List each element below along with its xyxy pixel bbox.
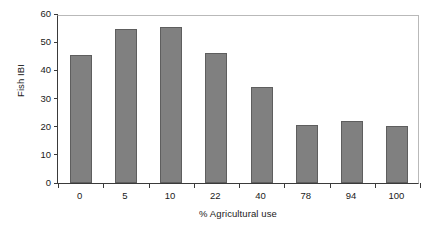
- x-tick-mark: [239, 183, 240, 188]
- bar: [205, 53, 227, 183]
- y-tick-label: 20: [40, 121, 51, 132]
- y-tick-mark: [54, 70, 58, 71]
- x-tick-mark: [420, 183, 421, 188]
- x-tick-mark: [58, 183, 59, 188]
- x-tick-label: 94: [329, 190, 374, 201]
- bar: [70, 55, 92, 183]
- y-tick-mark: [54, 126, 58, 127]
- y-tick-mark: [54, 98, 58, 99]
- y-axis-title: Fish IBI: [15, 51, 26, 111]
- y-tick-label: 10: [40, 149, 51, 160]
- x-tick-label: 0: [57, 190, 102, 201]
- x-tick-mark: [330, 183, 331, 188]
- y-tick-label: 50: [40, 36, 51, 47]
- y-tick-mark: [54, 14, 58, 15]
- bar: [115, 29, 137, 183]
- y-tick-label: 60: [40, 8, 51, 19]
- x-tick-mark: [284, 183, 285, 188]
- fish-ibi-bar-chart: Fish IBI 0102030405060 051022407894100 %…: [0, 0, 443, 240]
- y-tick-label: 30: [40, 93, 51, 104]
- x-tick-mark: [375, 183, 376, 188]
- y-tick-mark: [54, 42, 58, 43]
- x-tick-mark: [194, 183, 195, 188]
- bar: [251, 87, 273, 183]
- bar: [160, 27, 182, 183]
- y-tick-label: 0: [46, 177, 51, 188]
- x-axis-title: % Agricultural use: [57, 208, 419, 219]
- bar: [386, 126, 408, 183]
- y-tick-label: 40: [40, 64, 51, 75]
- plot-area: 0102030405060: [57, 15, 419, 184]
- x-tick-label: 40: [238, 190, 283, 201]
- x-tick-label: 100: [374, 190, 419, 201]
- bar: [341, 121, 363, 183]
- x-tick-mark: [149, 183, 150, 188]
- bar: [296, 125, 318, 183]
- y-tick-mark: [54, 154, 58, 155]
- x-tick-mark: [103, 183, 104, 188]
- x-tick-label: 22: [193, 190, 238, 201]
- x-tick-label: 10: [148, 190, 193, 201]
- x-tick-label: 78: [283, 190, 328, 201]
- x-tick-label: 5: [102, 190, 147, 201]
